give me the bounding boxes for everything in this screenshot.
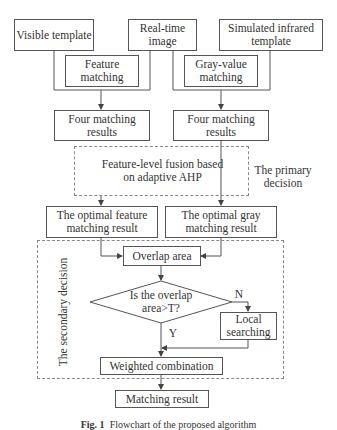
local-searching-node: Local searching (220, 312, 277, 340)
figure-caption: Fig. 1 Flowchart of the proposed algorit… (0, 419, 337, 430)
four-matching-results-left-node: Four matching results (54, 110, 150, 141)
figure-number: Fig. 1 (81, 419, 105, 430)
feature-level-fusion-label: Feature-level fusion based on adaptive A… (100, 158, 225, 184)
optimal-gray-result-node: The optimal gray matching result (165, 206, 277, 238)
simulated-infrared-template-node: Simulated infrared template (219, 19, 323, 51)
edge-label-no: N (233, 288, 245, 301)
real-time-image-node: Real-time image (128, 19, 197, 51)
four-matching-results-right-node: Four matching results (173, 110, 269, 141)
edge-label-yes: Y (167, 327, 179, 340)
visible-template-node: Visible template (14, 19, 94, 51)
decision-node: Is the overlap area>T? (118, 289, 204, 315)
optimal-feature-result-node: The optimal feature matching result (46, 206, 158, 238)
feature-matching-node: Feature matching (65, 55, 139, 87)
weighted-combination-node: Weighted combination (100, 357, 223, 375)
secondary-decision-label: The secondary decision (57, 257, 69, 367)
primary-decision-label: The primary decision (252, 164, 314, 190)
overlap-area-node: Overlap area (123, 246, 201, 266)
figure-caption-text: Flowchart of the proposed algorithm (110, 419, 257, 430)
gray-value-matching-node: Gray-value matching (184, 55, 258, 87)
matching-result-node: Matching result (115, 390, 209, 408)
